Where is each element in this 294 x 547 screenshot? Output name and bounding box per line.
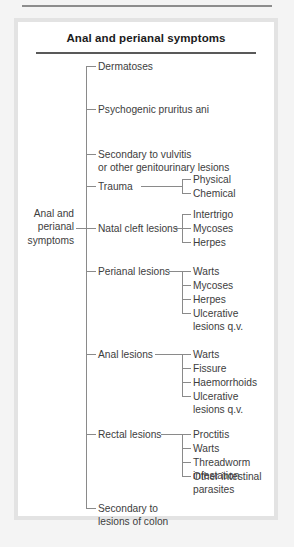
tree-node-trauma: Trauma	[98, 180, 178, 193]
tree-node-fissure: Fissure	[193, 362, 273, 375]
tree-node-dermatoses: Dermatoses	[98, 60, 268, 73]
tree-node-proctitis: Proctitis	[193, 428, 273, 441]
tree-node-mycoses-natal: Mycoses	[193, 222, 273, 235]
tree-node-herpes-natal: Herpes	[193, 236, 273, 249]
tree-node-perianal-lesions: Perianal lesions	[98, 265, 188, 278]
tree-node-psychogenic-pruritus-ani: Psychogenic pruritus ani	[98, 103, 268, 116]
tree-node-secondary-to-lesions-of-colon: Secondary to lesions of colon	[98, 502, 218, 528]
tree-node-chemical: Chemical	[193, 187, 273, 200]
tree-node-ulcerative-lesions-anal: Ulcerative lesions q.v.	[193, 390, 273, 416]
tree-node-warts-perianal: Warts	[193, 265, 273, 278]
tree-node-other-intestinal-parasites: Other intestinal parasites	[193, 470, 277, 496]
tree-node-natal-cleft-lesions: Natal cleft lesions	[98, 222, 188, 235]
tree-node-anal-lesions: Anal lesions	[98, 348, 188, 361]
tree-node-secondary-to-vulvitis: Secondary to vulvitis or other genitouri…	[98, 148, 274, 174]
figure-card-inner: Anal and perianal symptoms	[18, 22, 274, 516]
tree-node-warts-rectal: Warts	[193, 442, 273, 455]
tree-diagram: Anal and perianal symptoms Dermatoses Ps…	[18, 22, 274, 516]
tree-node-physical: Physical	[193, 173, 273, 186]
tree-node-warts-anal: Warts	[193, 348, 273, 361]
tree-node-rectal-lesions: Rectal lesions	[98, 428, 188, 441]
page-top-rule	[22, 5, 272, 7]
tree-node-ulcerative-lesions-perianal: Ulcerative lesions q.v.	[193, 307, 273, 333]
tree-node-intertrigo: Intertrigo	[193, 208, 273, 221]
figure-card: Anal and perianal symptoms	[14, 18, 278, 520]
page-background: Anal and perianal symptoms	[0, 0, 294, 547]
tree-node-mycoses-perianal: Mycoses	[193, 279, 273, 292]
tree-node-herpes-perianal: Herpes	[193, 293, 273, 306]
tree-node-haemorrhoids: Haemorrhoids	[193, 376, 278, 389]
tree-root-node: Anal and perianal symptoms	[18, 207, 74, 247]
